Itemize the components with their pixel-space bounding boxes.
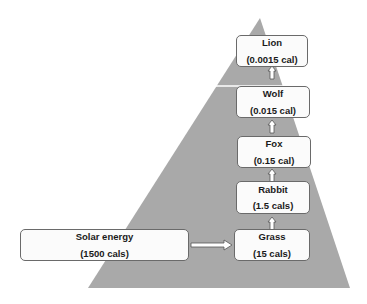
wolf-label: Wolf xyxy=(263,89,283,99)
box-solar-energy: Solar energy (1500 cals) xyxy=(20,229,189,261)
fox-value: (0.15 cal) xyxy=(254,156,295,166)
lion-value: (0.0015 cal) xyxy=(246,55,297,65)
box-fox: Fox (0.15 cal) xyxy=(237,136,311,168)
rabbit-label: Rabbit xyxy=(258,185,288,195)
rabbit-value: (1.5 cals) xyxy=(253,201,294,211)
box-grass: Grass (15 cals) xyxy=(234,229,310,261)
grass-label: Grass xyxy=(259,232,286,242)
lion-label: Lion xyxy=(262,38,282,48)
box-lion: Lion (0.0015 cal) xyxy=(236,35,308,67)
solar-label: Solar energy xyxy=(76,232,134,242)
fox-label: Fox xyxy=(266,139,283,149)
box-wolf: Wolf (0.015 cal) xyxy=(236,86,310,118)
wolf-value: (0.015 cal) xyxy=(250,106,296,116)
solar-value: (1500 cals) xyxy=(80,249,129,259)
box-rabbit: Rabbit (1.5 cals) xyxy=(236,181,310,214)
grass-value: (15 cals) xyxy=(253,249,291,259)
